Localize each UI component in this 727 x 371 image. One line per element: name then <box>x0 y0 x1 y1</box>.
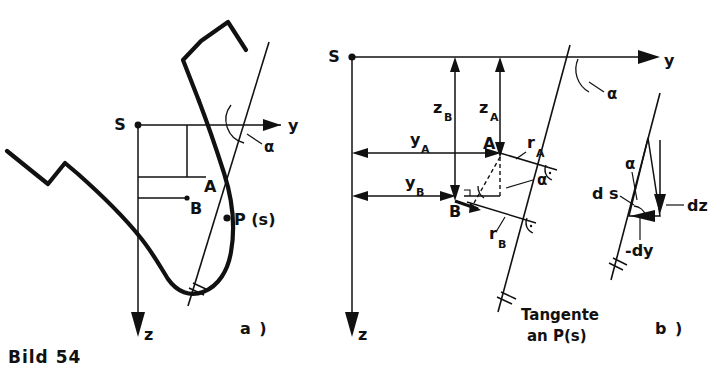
panel-b-caption: b ) <box>655 319 684 338</box>
panel-middle-dim-za-base: z <box>479 98 488 117</box>
panel-middle-z-axis-label: z <box>358 325 367 344</box>
panel-middle-dim-zb-sub: B <box>444 111 452 124</box>
panel-middle-origin-label: S <box>328 47 340 66</box>
panel-middle-dim-za-sub: A <box>490 111 499 124</box>
panel-middle-radius-a-base: r <box>527 133 535 152</box>
figure-canvas: y z S A B P (s) α a ) <box>0 0 727 371</box>
panel-b-dy-label: -dy <box>625 241 654 260</box>
panel-a-origin-dot <box>135 122 142 129</box>
panel-middle-radius-a-sub: A <box>536 147 545 160</box>
panel-a-point-b-dot <box>184 195 189 200</box>
panel-a-point-p-dot <box>223 214 230 221</box>
panel-middle-tangent-caption-line2: an P(s) <box>527 327 587 345</box>
panel-middle-point-a-label: A <box>483 134 496 153</box>
panel-middle-inner-angle-label: α <box>537 171 547 189</box>
panel-b-ds-label: d s <box>592 184 619 203</box>
panel-b-dz-label: dz <box>687 196 708 215</box>
panel-middle-dim-zb-base: z <box>433 98 442 117</box>
panel-a-z-axis-label: z <box>144 325 153 344</box>
panel-b-angle-label: α <box>625 155 635 173</box>
panel-a-point-a-label: A <box>204 177 217 196</box>
panel-middle-radius-b-base: r <box>489 224 497 243</box>
panel-middle-dim-ya-base: y <box>410 130 421 149</box>
panel-a-point-p-label: P (s) <box>234 210 275 229</box>
panel-a-point-b-label: B <box>190 199 202 218</box>
panel-a-y-axis-label: y <box>288 116 299 135</box>
panel-middle-dim-ya-sub: A <box>421 143 430 156</box>
panel-middle-right-angle-b-dot <box>530 225 532 227</box>
panel-middle-right-angle-a-dot <box>549 172 551 174</box>
panel-middle-top-angle-label: α <box>607 85 617 103</box>
panel-middle-y-axis-label: y <box>664 51 675 70</box>
panel-middle-tangent-caption-line1: Tangente <box>521 306 599 324</box>
panel-a-origin-label: S <box>114 115 126 134</box>
panel-middle-point-b-label: B <box>449 202 461 221</box>
figure-caption: Bild 54 <box>8 347 81 367</box>
panel-a-caption: a ) <box>240 319 268 338</box>
technical-diagram-bild-54: y z S A B P (s) α a ) <box>0 0 727 371</box>
panel-middle-radius-b-sub: B <box>498 238 506 251</box>
panel-middle-dim-yb-base: y <box>405 173 416 192</box>
panel-a-angle-label: α <box>264 138 274 156</box>
panel-middle-dim-yb-sub: B <box>416 186 424 199</box>
